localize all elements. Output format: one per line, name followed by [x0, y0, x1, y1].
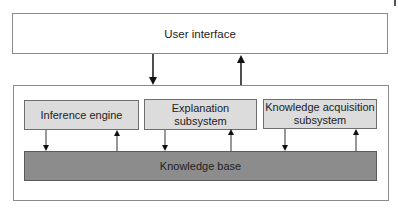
arrowhead-down-icon: [149, 77, 157, 85]
arrowhead-down-icon: [162, 145, 168, 151]
arrowhead-down-icon: [282, 145, 288, 151]
arrowhead-up-icon: [237, 55, 245, 63]
arrowhead-up-icon: [114, 130, 120, 136]
arrows-layer: [0, 0, 398, 211]
arrowhead-up-icon: [353, 129, 359, 135]
arrowhead-down-icon: [43, 145, 49, 151]
arrowhead-up-icon: [228, 129, 234, 135]
